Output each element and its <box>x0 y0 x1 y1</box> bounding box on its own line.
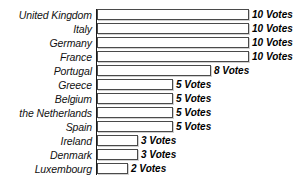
chart-row: the Netherlands 5 Votes <box>0 106 307 120</box>
value-label: 3 Votes <box>141 149 176 161</box>
value-label: 3 Votes <box>141 135 176 147</box>
value-label: 5 Votes <box>176 93 211 105</box>
category-label: the Netherlands <box>0 107 92 119</box>
bar[interactable] <box>97 93 173 104</box>
bar[interactable] <box>97 23 249 34</box>
chart-row: Germany 10 Votes <box>0 36 307 50</box>
chart-row: Denmark 3 Votes <box>0 148 307 162</box>
category-label: Belgium <box>0 93 92 105</box>
bar[interactable] <box>97 65 211 76</box>
value-label: 5 Votes <box>176 79 211 91</box>
category-label: Denmark <box>0 149 92 161</box>
chart-row: Portugal 8 Votes <box>0 64 307 78</box>
value-label: 5 Votes <box>176 121 211 133</box>
value-label: 5 Votes <box>176 107 211 119</box>
value-label: 10 Votes <box>252 9 293 21</box>
category-label: Spain <box>0 121 92 133</box>
bar[interactable] <box>97 51 249 62</box>
bar[interactable] <box>97 121 173 132</box>
bar[interactable] <box>97 135 138 146</box>
chart-row: Belgium 5 Votes <box>0 92 307 106</box>
category-label: Germany <box>0 37 92 49</box>
bar[interactable] <box>97 163 128 174</box>
chart-row: United Kingdom 10 Votes <box>0 8 307 22</box>
chart-row: Spain 5 Votes <box>0 120 307 134</box>
chart-row: Ireland 3 Votes <box>0 134 307 148</box>
value-label: 10 Votes <box>252 51 293 63</box>
value-label: 8 Votes <box>214 65 249 77</box>
value-label: 2 Votes <box>131 163 166 175</box>
value-label: 10 Votes <box>252 23 293 35</box>
chart-row: Italy 10 Votes <box>0 22 307 36</box>
votes-bar-chart: United Kingdom 10 Votes Italy 10 Votes G… <box>0 0 307 183</box>
category-label: Portugal <box>0 65 92 77</box>
chart-row: Greece 5 Votes <box>0 78 307 92</box>
bar[interactable] <box>97 79 173 90</box>
bar[interactable] <box>97 107 173 118</box>
category-label: France <box>0 51 92 63</box>
category-label: Luxembourg <box>0 163 92 175</box>
category-label: Italy <box>0 23 92 35</box>
category-label: Greece <box>0 79 92 91</box>
chart-row: France 10 Votes <box>0 50 307 64</box>
bar[interactable] <box>97 37 249 48</box>
category-label: United Kingdom <box>0 9 92 21</box>
category-label: Ireland <box>0 135 92 147</box>
chart-row: Luxembourg 2 Votes <box>0 162 307 176</box>
bar[interactable] <box>97 9 249 20</box>
bar[interactable] <box>97 149 138 160</box>
value-label: 10 Votes <box>252 37 293 49</box>
